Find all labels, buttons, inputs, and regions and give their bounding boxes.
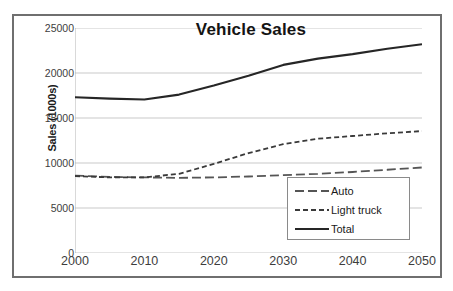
y-axis-tick-label: 25000 [28, 22, 74, 34]
y-axis-tick-label: 20000 [28, 67, 74, 79]
figure-frame: Sales (1000s) 0500010000150002000025000 … [12, 14, 442, 278]
legend-label: Light truck [331, 204, 382, 216]
legend-item-auto: Auto [288, 181, 409, 200]
y-axis-tick-label: 5000 [28, 202, 74, 214]
y-axis-tick-label: 15000 [28, 112, 74, 124]
x-axis-tick-label: 2040 [339, 254, 367, 268]
legend-swatch-icon [294, 186, 330, 196]
legend-item-light-truck: Light truck [288, 200, 409, 219]
x-axis-tick-label: 2030 [269, 254, 297, 268]
x-axis-tick-label: 2050 [408, 254, 436, 268]
legend-item-total: Total [288, 219, 409, 238]
legend-label: Auto [331, 185, 354, 197]
x-axis-tick-labels: 200020102020203020402050 [75, 254, 422, 278]
chart-container: Sales (1000s) 0500010000150002000025000 … [0, 0, 453, 291]
series-line-total [75, 44, 422, 99]
series-line-light-truck [75, 131, 422, 177]
legend-swatch-icon [294, 205, 330, 215]
x-axis-tick-label: 2010 [130, 254, 158, 268]
chart-legend: AutoLight truckTotal [287, 177, 410, 240]
y-axis-tick-labels: 0500010000150002000025000 [28, 16, 74, 276]
legend-swatch-icon [294, 224, 330, 234]
legend-label: Total [331, 223, 354, 235]
x-axis-tick-label: 2000 [61, 254, 89, 268]
y-axis-tick-label: 10000 [28, 157, 74, 169]
x-axis-tick-label: 2020 [200, 254, 228, 268]
